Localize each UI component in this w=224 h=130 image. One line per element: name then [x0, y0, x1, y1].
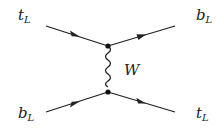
- arrow-icon: [70, 101, 80, 107]
- arrow-icon: [136, 98, 146, 104]
- label-incoming-top: tL: [18, 8, 31, 25]
- label-outgoing-top: bL: [196, 8, 212, 25]
- bottom-vertex: [105, 89, 110, 94]
- label-outgoing-bottom: tL: [196, 106, 209, 123]
- w-boson-propagator: [106, 46, 111, 87]
- top-vertex: [105, 43, 110, 48]
- arrow-icon: [137, 34, 147, 40]
- label-incoming-bottom: bL: [18, 106, 34, 123]
- label-propagator: W: [124, 63, 139, 78]
